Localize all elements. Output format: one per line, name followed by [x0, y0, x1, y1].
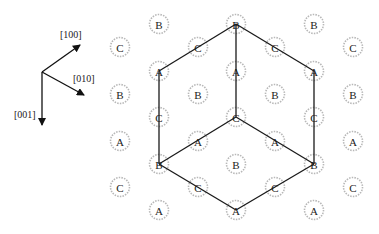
lattice-site-b: B	[344, 85, 363, 104]
site-label: C	[116, 42, 123, 54]
cell-edge	[236, 24, 314, 71]
site-label: B	[232, 159, 239, 171]
site-label: C	[349, 42, 356, 54]
lattice-site-b: B	[305, 15, 324, 34]
lattice-site-c: C	[111, 38, 130, 57]
site-label: B	[349, 89, 356, 101]
site-label: A	[155, 205, 163, 217]
axis-arrow	[42, 45, 80, 72]
axis-label: [001]	[14, 109, 36, 120]
lattice-site-b: B	[227, 155, 246, 174]
lattice-site-a: A	[111, 132, 130, 151]
cell-edge	[159, 164, 236, 210]
axes-indicator: [100][010][001]	[14, 29, 95, 125]
site-label: A	[349, 136, 357, 148]
site-label: B	[116, 89, 123, 101]
site-label: A	[310, 205, 318, 217]
lattice-site-b: B	[111, 85, 130, 104]
cell-edge	[236, 117, 314, 164]
lattice-site-c: C	[111, 178, 130, 197]
crystal-lattice-diagram: [100][010][001] CBACBACBACBACBACBACBACBA…	[0, 0, 379, 234]
axis-label: [100]	[60, 29, 82, 40]
lattice-site-b: B	[150, 15, 169, 34]
lattice-site-a: A	[150, 201, 169, 220]
axis-label: [010]	[73, 73, 95, 84]
site-label: C	[116, 182, 123, 194]
cell-edge	[159, 24, 236, 71]
cell-edge	[159, 117, 236, 164]
site-label: B	[310, 19, 317, 31]
unit-cell-edges	[159, 24, 314, 210]
site-label: C	[349, 182, 356, 194]
lattice-site-c: C	[344, 178, 363, 197]
site-label: A	[232, 205, 240, 217]
lattice-site-b: B	[189, 85, 208, 104]
lattice-site-c: C	[344, 38, 363, 57]
lattice-site-a: A	[344, 132, 363, 151]
site-label: B	[271, 89, 278, 101]
lattice-site-a: A	[189, 132, 208, 151]
lattice-site-b: B	[266, 85, 285, 104]
site-label: A	[116, 136, 124, 148]
lattice-site-a: A	[305, 201, 324, 220]
site-label: B	[194, 89, 201, 101]
cell-edge	[236, 164, 314, 210]
site-label: B	[155, 19, 162, 31]
